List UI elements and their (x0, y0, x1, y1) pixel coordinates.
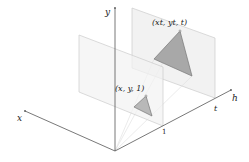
homogeneous-coordinates-diagram: y x h t 1 (xt, yt, t) (x, y, 1) (0, 0, 249, 162)
t-tick-label: t (214, 104, 218, 113)
far-point-label: (xt, yt, t) (152, 18, 187, 27)
x-axis (25, 111, 115, 151)
near-point-label: (x, y, 1) (115, 84, 144, 93)
y-axis-label: y (104, 7, 111, 17)
one-tick-label: 1 (162, 128, 166, 136)
h-axis-label: h (232, 93, 238, 103)
x-axis-label: x (17, 113, 22, 123)
